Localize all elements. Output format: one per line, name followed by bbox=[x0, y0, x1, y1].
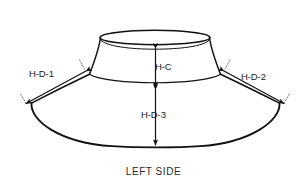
hat-diagram: H-D-1 H-D-2 H-C H-D-3 LEFT SIDE bbox=[0, 0, 307, 195]
dimension-label-hd3: H-D-3 bbox=[141, 110, 166, 120]
tick-right-outer bbox=[284, 94, 290, 103]
tick-left-inner bbox=[80, 60, 85, 69]
crown-top-rim-outer bbox=[100, 30, 210, 44]
dimension-label-hc: H-C bbox=[155, 62, 172, 72]
dimension-label-hd2: H-D-2 bbox=[241, 72, 266, 82]
tick-right-inner bbox=[225, 60, 230, 69]
dimension-label-hd1: H-D-1 bbox=[29, 69, 54, 79]
diagram-caption: LEFT SIDE bbox=[0, 166, 307, 177]
crown-left-side bbox=[90, 38, 101, 75]
crown-right-side bbox=[210, 38, 221, 75]
hat-outline bbox=[21, 30, 290, 147]
tick-left-outer bbox=[21, 94, 27, 103]
